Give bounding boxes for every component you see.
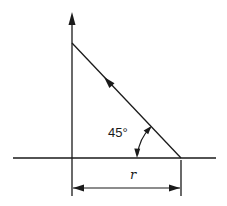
angle-arc	[134, 126, 151, 158]
arc-arrow-top-icon	[144, 126, 152, 134]
dimension-arrow-left-icon	[73, 185, 84, 192]
geometry-diagram: 45° r	[0, 0, 227, 206]
diagonal-line	[72, 43, 181, 158]
angle-label: 45°	[108, 125, 128, 140]
vertical-axis	[69, 12, 76, 196]
dimension-label: r	[130, 167, 137, 182]
dimension-arrow-right-icon	[169, 185, 180, 192]
arc-arrow-bottom-icon	[134, 149, 140, 159]
dimension-r	[73, 160, 181, 196]
vertical-axis-arrow-icon	[69, 12, 76, 25]
